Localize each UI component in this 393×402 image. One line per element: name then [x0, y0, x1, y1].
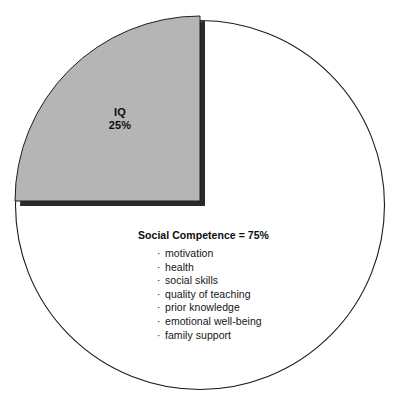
iq-wedge-label: IQ 25%	[78, 106, 162, 132]
list-item: ·social skills	[157, 274, 328, 288]
bullet-icon: ·	[157, 261, 165, 275]
social-competence-heading: Social Competence = 75%	[138, 229, 328, 241]
list-item-label: social skills	[165, 274, 218, 286]
list-item: ·motivation	[157, 247, 328, 261]
list-item-label: emotional well-being	[165, 315, 262, 327]
list-item: ·prior knowledge	[157, 301, 328, 315]
bullet-icon: ·	[157, 315, 165, 329]
list-item-label: prior knowledge	[165, 301, 240, 313]
list-item: ·emotional well-being	[157, 315, 328, 329]
bullet-icon: ·	[157, 301, 165, 315]
pie-chart-figure: IQ 25% Social Competence = 75% ·motivati…	[0, 0, 393, 402]
bullet-icon: ·	[157, 288, 165, 302]
bullet-icon: ·	[157, 247, 165, 261]
list-item: ·health	[157, 261, 328, 275]
list-item: ·quality of teaching	[157, 288, 328, 302]
iq-wedge-label-name: IQ	[78, 106, 162, 119]
list-item: ·family support	[157, 329, 328, 343]
social-competence-block: Social Competence = 75% ·motivation ·hea…	[128, 229, 328, 342]
list-item-label: family support	[165, 329, 231, 341]
list-item-label: health	[165, 261, 194, 273]
list-item-label: quality of teaching	[165, 288, 251, 300]
bullet-icon: ·	[157, 274, 165, 288]
social-competence-list: ·motivation ·health ·social skills ·qual…	[128, 247, 328, 342]
list-item-label: motivation	[165, 247, 213, 259]
bullet-icon: ·	[157, 329, 165, 343]
iq-wedge-label-percent: 25%	[78, 119, 162, 132]
